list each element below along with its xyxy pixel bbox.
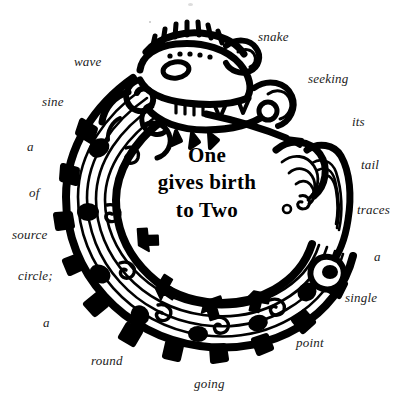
center-caption-line-2: gives birth — [126, 169, 288, 196]
center-caption-line-3: to Two — [126, 197, 288, 224]
diagram-canvas: snake wave seeking sine its a tail of tr… — [0, 0, 410, 398]
center-caption-line-1: One — [126, 142, 288, 169]
center-caption: One gives birth to Two — [126, 142, 288, 224]
